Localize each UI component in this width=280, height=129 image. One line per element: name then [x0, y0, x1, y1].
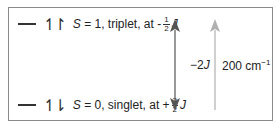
triplet-spin-variable: S — [73, 17, 81, 31]
triplet-energy-line — [18, 23, 36, 24]
antiparallel-spins-icon: ↿⇂ — [43, 96, 64, 115]
singlet-spin-variable: S — [73, 98, 81, 112]
triplet-description: = 1, triplet, at - — [81, 17, 161, 31]
up-arrow-icon — [208, 18, 222, 112]
singlet-level: ↿⇂ S = 0, singlet, at + 3 2 J — [18, 95, 186, 115]
singlet-description: = 0, singlet, at + — [81, 98, 170, 112]
energy-label: 200 cm−1 — [222, 58, 270, 73]
triplet-level: ↿↾ S = 1, triplet, at - 1 2 J — [18, 14, 178, 34]
singlet-energy-line — [18, 104, 36, 105]
parallel-spins-icon: ↿↾ — [43, 15, 64, 34]
double-headed-arrow-icon — [168, 18, 182, 112]
exchange-label: −2J — [190, 58, 210, 72]
